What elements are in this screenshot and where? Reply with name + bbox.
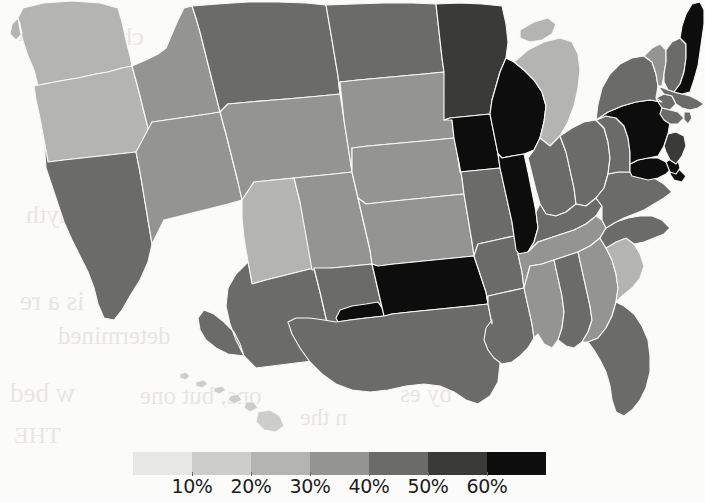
- state-hi[interactable]: Hawaii: 22%: [214, 386, 226, 394]
- figure-page: thinchusanythis a redeterminedw bedons, …: [0, 0, 705, 502]
- legend-tick-40pct: 40%: [348, 475, 389, 497]
- legend-tick-10pct: 10%: [171, 475, 212, 497]
- state-hi[interactable]: Hawaii: 22%: [244, 402, 258, 412]
- legend-tick-60pct: 60%: [466, 475, 507, 497]
- legend-swatch-7: [487, 452, 546, 475]
- legend-tick-30pct: 30%: [289, 475, 330, 497]
- us-map-svg: Washington: 28%Oregon: 27%California: 47…: [0, 0, 705, 440]
- legend-tick-50pct: 50%: [407, 475, 448, 497]
- state-tx[interactable]: Texas: 45%: [288, 304, 500, 404]
- legend-tick-20pct: 20%: [230, 475, 271, 497]
- legend-swatch-3: [251, 452, 310, 475]
- legend-swatch-2: [192, 452, 251, 475]
- map-legend: 10%20%30%40%50%60%: [0, 444, 705, 502]
- state-hi[interactable]: Hawaii: 22%: [228, 394, 242, 404]
- legend-tick-labels: 10%20%30%40%50%60%: [133, 475, 546, 500]
- state-nj[interactable]: New Jersey: 57%: [664, 132, 686, 164]
- legend-swatch-6: [428, 452, 487, 475]
- state-hi[interactable]: Hawaii: 22%: [196, 380, 208, 388]
- legend-swatch-4: [310, 452, 369, 475]
- us-choropleth-map: Washington: 28%Oregon: 27%California: 47…: [0, 0, 705, 440]
- legend-color-bar: [133, 452, 546, 475]
- state-hi[interactable]: Hawaii: 22%: [180, 372, 190, 380]
- state-ne[interactable]: Nebraska: 32%: [352, 138, 464, 204]
- legend-swatch-1: [133, 452, 192, 475]
- state-ca[interactable]: California: 47%: [44, 140, 152, 320]
- state-ri[interactable]: Rhode Island: 47%: [684, 112, 692, 124]
- state-ks[interactable]: Kansas: 37%: [358, 194, 474, 266]
- state-hi[interactable]: Hawaii: 22%: [256, 410, 284, 432]
- legend-swatch-5: [369, 452, 428, 475]
